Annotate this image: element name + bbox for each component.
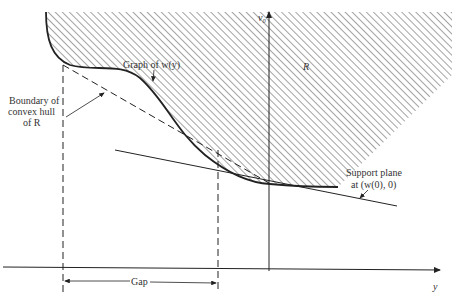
vertical-axis-label: v₀: [258, 12, 266, 23]
support-label-2: at (w(0), 0): [351, 179, 396, 190]
boundary-label-3: of R: [23, 117, 41, 128]
diagram-canvas: [0, 0, 456, 297]
region-label: R: [303, 61, 309, 72]
region-r: [46, 12, 452, 187]
horizontal-axis: [3, 267, 440, 270]
boundary-label-1: Boundary of: [9, 95, 59, 106]
graph-label: Graph of w(y): [123, 59, 180, 70]
gap-label: Gap: [131, 276, 148, 287]
support-leader-arrow: [360, 190, 368, 198]
diagram: Graph of w(y) Boundary of convex hull of…: [0, 0, 456, 297]
horizontal-axis-label: y: [433, 281, 437, 292]
gap-arrow-right: [150, 282, 216, 283]
boundary-label-2: convex hull: [8, 106, 55, 117]
support-label-1: Support plane: [346, 167, 402, 178]
boundary-leader-arrow: [66, 93, 104, 117]
